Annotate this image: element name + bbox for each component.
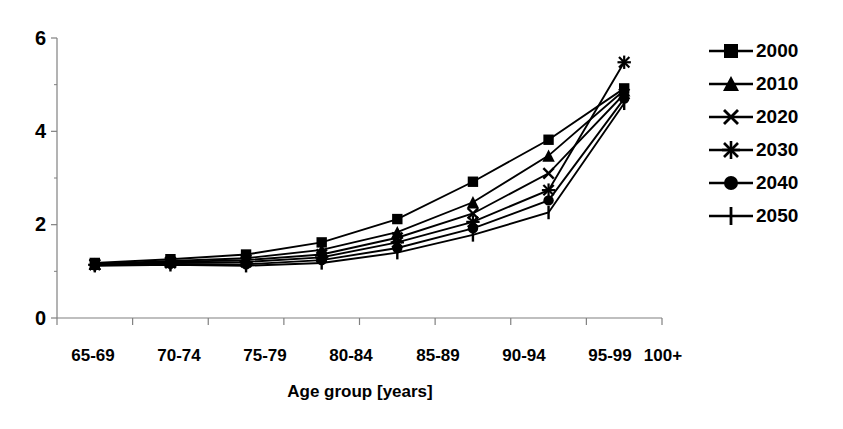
asterisk-marker-icon	[708, 139, 754, 161]
series-2010	[89, 84, 631, 270]
x-axis-tick-label-0: 65-69	[55, 347, 131, 364]
series-2030	[88, 56, 631, 272]
x-axis-tick-label-7: 100+	[625, 347, 701, 364]
series-2020	[90, 89, 630, 270]
circle-marker-icon	[708, 172, 754, 194]
x-axis-tick-label-3: 80-84	[313, 347, 389, 364]
line-chart-figure: 6 4 2 0 65-69 70-74 75-79 80-84 85-89 90…	[0, 0, 843, 429]
legend-label-2030: 2030	[756, 140, 798, 159]
x-axis-title: Age group [years]	[57, 383, 663, 400]
legend-item-2020[interactable]: 2020	[708, 100, 833, 133]
legend-item-2010[interactable]: 2010	[708, 67, 833, 100]
legend-item-2040[interactable]: 2040	[708, 166, 833, 199]
legend-label-2020: 2020	[756, 107, 798, 126]
legend-label-2050: 2050	[756, 206, 798, 225]
x-axis-tick-label-4: 85-89	[400, 347, 476, 364]
x-axis-tick-label-1: 70-74	[141, 347, 217, 364]
x-axis-tick-label-5: 90-94	[486, 347, 562, 364]
cross-x-marker-icon	[708, 106, 754, 128]
legend-label-2000: 2000	[756, 41, 798, 60]
legend-item-2030[interactable]: 2030	[708, 133, 833, 166]
legend-item-2000[interactable]: 2000	[708, 34, 833, 67]
square-marker-icon	[708, 40, 754, 62]
legend-item-2050[interactable]: 2050	[708, 199, 833, 232]
plus-marker-icon	[708, 205, 754, 227]
legend-label-2040: 2040	[756, 173, 798, 192]
triangle-marker-icon	[708, 73, 754, 95]
chart-legend: 2000 2010 2020	[708, 34, 833, 232]
x-axis-tick-label-2: 75-79	[227, 347, 303, 364]
legend-label-2010: 2010	[756, 74, 798, 93]
series-2040	[90, 93, 630, 270]
